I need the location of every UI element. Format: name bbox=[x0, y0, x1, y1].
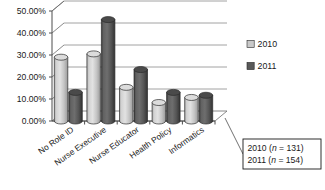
note-line: 2010 (n = 131) bbox=[248, 143, 304, 153]
bar bbox=[199, 92, 213, 124]
y-tick-label: 10.00% bbox=[17, 94, 47, 104]
legend-label: 2011 bbox=[258, 61, 277, 71]
bar bbox=[101, 17, 115, 124]
legend-swatch bbox=[247, 40, 254, 47]
bar bbox=[167, 89, 181, 124]
bar bbox=[54, 54, 68, 124]
bar bbox=[152, 100, 166, 124]
legend-label: 2010 bbox=[258, 39, 278, 49]
bar bbox=[134, 67, 148, 124]
y-tick-label: 40.00% bbox=[17, 28, 47, 38]
bar bbox=[87, 51, 101, 124]
bar bbox=[69, 89, 83, 124]
y-tick-label: 20.00% bbox=[17, 72, 47, 82]
bar-chart-3d: 0.00%10.00%20.00%30.00%40.00%50.00% No R… bbox=[0, 0, 325, 190]
y-tick-label: 50.00% bbox=[17, 6, 47, 16]
y-tick-label: 0.00% bbox=[22, 116, 47, 126]
legend-swatch bbox=[247, 62, 254, 69]
chart-canvas: 0.00%10.00%20.00%30.00%40.00%50.00% No R… bbox=[0, 0, 325, 190]
note-line: 2011 (n = 154) bbox=[248, 155, 304, 165]
bar bbox=[185, 94, 199, 124]
bar bbox=[120, 84, 134, 124]
y-tick-label: 30.00% bbox=[17, 50, 47, 60]
